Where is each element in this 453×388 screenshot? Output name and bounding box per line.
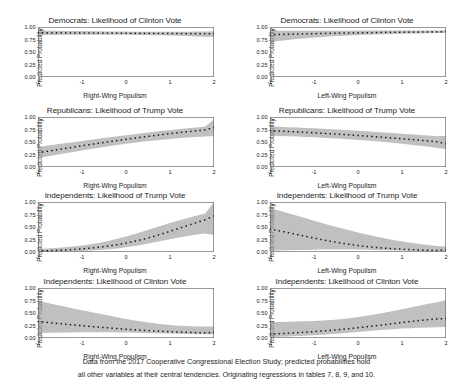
data-point [316, 331, 318, 333]
x-tick-label: 1 [400, 340, 403, 346]
data-point [204, 129, 206, 131]
data-point [399, 322, 401, 324]
data-point [88, 32, 90, 34]
panel-title: Independents: Likelihood of Trump Vote [10, 191, 220, 201]
chart-panel-rep-trump-lwp: Republicans: Likelihood of Trump VotePre… [242, 106, 452, 194]
data-point [153, 33, 155, 35]
data-point [181, 132, 183, 134]
data-point [139, 329, 141, 331]
data-point [431, 141, 433, 143]
data-point [283, 333, 285, 335]
data-point [445, 31, 446, 33]
panel-title: Republicans: Likelihood of Trump Vote [242, 106, 452, 116]
y-tick-label: 0.25 [257, 152, 268, 158]
data-point [42, 250, 44, 252]
data-point [144, 136, 146, 138]
data-point [213, 332, 214, 334]
data-point [422, 249, 424, 251]
data-point [348, 134, 350, 136]
data-point [185, 131, 187, 133]
panel-title: Democrats: Likelihood of Clinton Vote [242, 16, 452, 26]
x-tick-label: -1 [312, 254, 317, 260]
data-point [70, 249, 72, 251]
x-tick-label: -1 [312, 169, 317, 175]
data-point [153, 236, 155, 238]
data-point [144, 238, 146, 240]
data-point [339, 329, 341, 331]
data-point [367, 246, 369, 248]
data-point [121, 139, 123, 141]
chart-panel-ind-trump-rwp: Independents: Likelihood of Trump VotePr… [10, 191, 220, 279]
data-point [116, 244, 118, 246]
data-point [367, 135, 369, 137]
data-point [348, 244, 350, 246]
data-point [74, 324, 76, 326]
data-point [79, 248, 81, 250]
y-tick-label: 0.75 [25, 127, 36, 133]
data-point [51, 32, 53, 34]
y-tick-label: 0.00 [25, 164, 36, 170]
y-tick-label: 1.00 [25, 114, 36, 120]
data-point [185, 225, 187, 227]
data-point [121, 32, 123, 34]
data-point [390, 323, 392, 325]
data-point [279, 34, 281, 36]
data-point [302, 235, 304, 237]
x-tick-label: 0 [124, 79, 127, 85]
data-point [93, 326, 95, 328]
x-tick-label: 2 [444, 340, 447, 346]
data-point [79, 325, 81, 327]
data-point [367, 32, 369, 34]
data-point [153, 135, 155, 137]
x-tick-label: -1 [80, 340, 85, 346]
x-tick-label: 2 [212, 169, 215, 175]
data-point [408, 321, 410, 323]
data-point [42, 32, 44, 34]
data-point [204, 219, 206, 221]
data-point [371, 325, 373, 327]
data-point [353, 32, 355, 34]
data-point [116, 328, 118, 330]
x-tick-label: 2 [212, 79, 215, 85]
data-point [158, 134, 160, 136]
data-point [297, 131, 299, 133]
x-axis-label: Right-Wing Populism [10, 267, 220, 275]
data-point [348, 328, 350, 330]
x-tick-label: -2 [36, 254, 41, 260]
data-point [56, 149, 58, 151]
data-point [288, 332, 290, 334]
data-point [209, 217, 211, 219]
x-tick-label: -2 [268, 79, 273, 85]
data-point [60, 249, 62, 251]
data-point [297, 33, 299, 35]
data-point [130, 329, 132, 331]
data-point [325, 133, 327, 134]
y-tick-label: 0.25 [257, 323, 268, 329]
data-point [167, 231, 169, 233]
data-point [84, 248, 86, 250]
data-point [181, 331, 183, 333]
data-point [162, 134, 164, 136]
x-tick-label: 1 [400, 79, 403, 85]
data-point [320, 330, 322, 332]
data-point [339, 242, 341, 244]
x-tick-label: 2 [212, 254, 215, 260]
data-point [158, 234, 160, 236]
x-tick-label: 0 [356, 340, 359, 346]
data-point [302, 33, 304, 35]
data-point [176, 331, 178, 333]
data-point [38, 152, 39, 154]
y-tick-label: 0.25 [257, 237, 268, 243]
data-point [353, 244, 355, 246]
data-point [125, 328, 127, 330]
data-point [394, 32, 396, 34]
plot-svg [38, 288, 214, 338]
y-tick-label: 1.00 [257, 199, 268, 205]
data-point [158, 330, 160, 332]
data-point [311, 331, 313, 333]
data-point [130, 33, 132, 35]
data-point [116, 140, 118, 142]
caption-line-1: Data from the 2017 Cooperative Congressi… [0, 356, 453, 369]
data-point [417, 249, 419, 251]
y-tick-label: 0.50 [25, 310, 36, 316]
